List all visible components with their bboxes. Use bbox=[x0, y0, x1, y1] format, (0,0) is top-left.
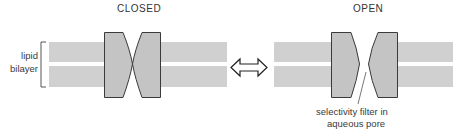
closed-channel bbox=[105, 33, 161, 98]
bilayer-outer-leaflet-left-open bbox=[274, 42, 332, 62]
open-channel-left-subunit bbox=[332, 33, 360, 98]
bilayer-label-line1: lipid bbox=[17, 50, 38, 61]
bilayer-inner-leaflet-left bbox=[49, 66, 105, 87]
bilayer-inner-leaflet-left-open bbox=[274, 66, 332, 87]
open-membrane bbox=[274, 42, 453, 87]
bilayer-bracket bbox=[41, 42, 46, 87]
double-arrow-icon bbox=[231, 59, 267, 76]
bilayer-inner-leaflet-right bbox=[160, 66, 227, 87]
pore-annotation-line1: selectivity filter in bbox=[316, 106, 388, 117]
bilayer-label-line2: bilayer bbox=[4, 63, 38, 74]
bilayer-outer-leaflet-left bbox=[49, 42, 105, 62]
closed-channel-left-subunit bbox=[105, 33, 133, 98]
open-channel bbox=[332, 33, 398, 98]
bilayer-outer-leaflet-right-open bbox=[397, 42, 453, 62]
bilayer-inner-leaflet-right-open bbox=[397, 66, 453, 87]
closed-title: CLOSED bbox=[117, 3, 161, 14]
pore-annotation-line2: aqueous pore bbox=[327, 118, 385, 129]
bilayer-outer-leaflet-right bbox=[160, 42, 227, 62]
closed-channel-right-subunit bbox=[133, 33, 161, 98]
open-title: OPEN bbox=[353, 3, 383, 14]
selectivity-filter-leader-line bbox=[358, 72, 366, 104]
open-channel-right-subunit bbox=[369, 33, 398, 98]
